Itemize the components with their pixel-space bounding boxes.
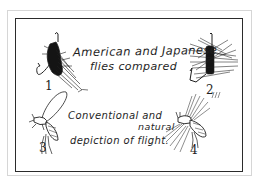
illustration-art xyxy=(0,0,259,185)
title-line-1: American and Japanese xyxy=(73,43,218,60)
panel-number-1: 1 xyxy=(45,79,53,93)
subtitle-line-2: natural xyxy=(138,121,175,132)
subtitle-line-3: depiction of flight. xyxy=(70,135,169,146)
panel-number-2: 2 xyxy=(206,83,214,97)
subtitle-line-1: Conventional and xyxy=(68,110,162,121)
conventional-flight-insect-icon xyxy=(29,92,67,154)
title-line-2: flies compared xyxy=(90,60,177,73)
panel-number-4: 4 xyxy=(190,143,198,157)
panel-number-3: 3 xyxy=(39,141,47,155)
